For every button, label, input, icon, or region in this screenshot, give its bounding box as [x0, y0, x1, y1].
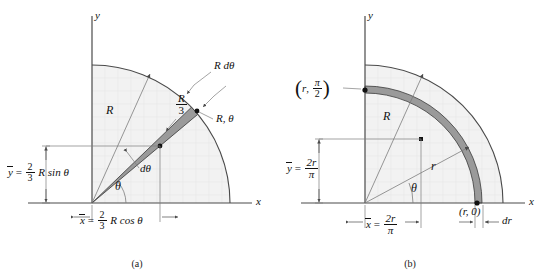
ybar-symbol: y — [287, 163, 292, 174]
panel-a-drawing — [0, 0, 274, 275]
panel-a-ybar-label: y = 2 3 R sin θ — [8, 162, 69, 184]
R-third-denominator: 3 — [176, 104, 187, 117]
Rdtheta-arrow-b — [203, 96, 214, 107]
panel-a: y x R R 3 R dθ R, θ θ dθ y = 2 3 R sin θ… — [0, 0, 274, 275]
panel-b-radius-r-label: r — [431, 160, 436, 172]
panel-a-xbar-label: x = 2 3 R cos θ — [80, 210, 143, 232]
panel-a-caption: (a) — [0, 258, 274, 269]
paren-close: ) — [323, 78, 330, 99]
panel-a-theta-label: θ — [115, 180, 121, 192]
ybar-frac-num: 2r — [305, 157, 319, 169]
panel-b-xbar-label: x = 2r π — [366, 213, 398, 237]
ybar-symbol: y — [8, 167, 13, 178]
ybar-equals: = — [16, 166, 22, 178]
ybar-frac-den: π — [305, 168, 319, 181]
xbar-rhs: R cos θ — [110, 214, 142, 226]
xbar-frac-den: π — [384, 224, 398, 237]
Rdtheta-arrow-a — [187, 85, 194, 94]
Rdtheta-ext-b — [214, 86, 226, 96]
ybar-frac-num: 2 — [26, 162, 35, 173]
xbar-equals: = — [374, 218, 380, 230]
xbar-equals: = — [88, 214, 94, 226]
ybar-frac-den: 3 — [26, 172, 35, 184]
xbar-symbol: x — [366, 219, 371, 230]
panel-a-dtheta-label: dθ — [140, 163, 151, 174]
xbar-symbol: x — [80, 215, 85, 226]
R-third-numerator: R — [176, 93, 187, 105]
panel-b-point-top-label: (r, π 2 ) — [295, 78, 330, 100]
panel-b: y x R r θ (r, π 2 ) (r, 0) dr y = 2r π x… — [273, 0, 547, 275]
panel-b-dr-label: dr — [502, 215, 512, 226]
panel-b-ybar-label: y = 2r π — [287, 157, 319, 181]
point-top-den: 2 — [313, 88, 322, 100]
panel-a-R-over-3-label: R 3 — [175, 93, 188, 117]
xbar-frac-num: 2r — [384, 213, 398, 225]
panel-b-radius-R-label: R — [383, 110, 390, 122]
ybar-equals: = — [295, 162, 301, 174]
point-top-num: π — [313, 78, 322, 89]
paren-open: ( — [295, 78, 302, 99]
panel-a-radius-label: R — [106, 104, 113, 116]
panel-a-arc-length-label: R dθ — [214, 60, 234, 71]
point-top-leader — [343, 88, 361, 89]
panel-a-y-axis-label: y — [95, 10, 100, 21]
Rdtheta-ext-a — [194, 72, 211, 85]
ybar-rhs: R sin θ — [38, 166, 68, 178]
point-top-comma: , — [306, 82, 312, 94]
panel-b-y-axis-label: y — [368, 10, 373, 21]
xbar-frac-den: 3 — [98, 220, 107, 232]
figure-container: y x R R 3 R dθ R, θ θ dθ y = 2 3 R sin θ… — [0, 0, 547, 275]
panel-a-x-axis-label: x — [256, 196, 261, 207]
panel-b-point-right-label: (r, 0) — [459, 206, 480, 217]
arc-point-R-theta — [195, 109, 200, 114]
panel-b-caption: (b) — [273, 258, 547, 269]
point-r-pi-over-2 — [362, 87, 367, 92]
panel-b-x-axis-label: x — [529, 196, 534, 207]
panel-b-drawing — [273, 0, 547, 275]
xbar-frac-num: 2 — [98, 210, 107, 221]
panel-b-theta-label: θ — [411, 182, 417, 194]
panel-a-point-label: R, θ — [216, 113, 234, 124]
